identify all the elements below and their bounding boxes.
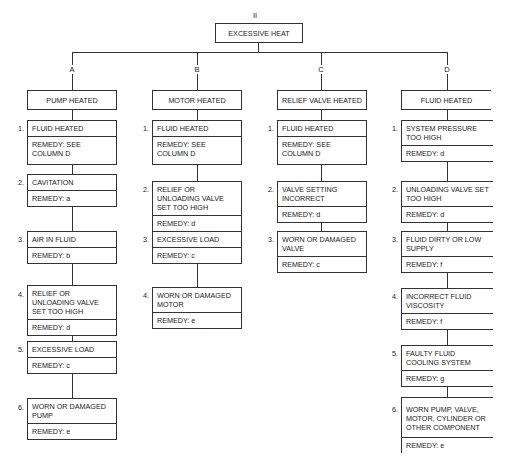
remedy-text: REMEDY: d <box>278 207 366 222</box>
item-number: 5. <box>384 349 398 358</box>
remedy-text: REMEDY: e <box>402 438 493 453</box>
cause-text: FLUID HEATED <box>153 121 241 137</box>
remedy-text: REMEDY: d <box>402 146 493 161</box>
item-number: 1. <box>260 124 274 133</box>
cause-text: FLUID HEATED <box>278 121 366 137</box>
cause-text: INCORRECT FLUID VISCOSITY <box>402 289 493 314</box>
remedy-text: REMEDY: SEE COLUMN D <box>28 137 116 164</box>
remedy-text: REMEDY: SEE COLUMN D <box>153 137 241 164</box>
column-c-title: RELIEF VALVE HEATED <box>277 90 367 110</box>
remedy-text: REMEDY: c <box>278 257 366 272</box>
item-number: 2. <box>260 185 274 194</box>
column-letter-b: B <box>192 65 202 74</box>
item-number: 3. <box>260 235 274 244</box>
cause-box: FLUID DIRTY OR LOW SUPPLY REMEDY: f <box>401 231 493 273</box>
remedy-text: REMEDY: d <box>402 207 493 222</box>
cause-text: RELIEF OR UNLOADING VALVE SET TOO HIGH <box>28 286 116 320</box>
remedy-text: REMEDY: b <box>28 248 116 263</box>
section-number: II <box>245 11 265 20</box>
cause-box: AIR IN FLUID REMEDY: b <box>27 231 117 264</box>
cause-text: EXCESSIVE LOAD <box>28 342 116 358</box>
cause-box: WORN OR DAMAGED PUMP REMEDY: e <box>27 398 117 440</box>
item-number: 2. <box>384 185 398 194</box>
remedy-text: REMEDY: f <box>402 314 493 329</box>
remedy-text: REMEDY: d <box>28 320 116 335</box>
item-number: 1. <box>384 124 398 133</box>
root-node-label: EXCESSIVE HEAT <box>228 29 289 38</box>
cause-text: SYSTEM PRESSURE TOO HIGH <box>402 121 493 146</box>
item-number: 1. <box>135 124 149 133</box>
cause-text: FLUID DIRTY OR LOW SUPPLY <box>402 232 493 257</box>
cause-box: FLUID HEATED REMEDY: SEE COLUMN D <box>277 120 367 165</box>
column-letter-c: C <box>316 65 326 74</box>
connector <box>258 43 259 52</box>
column-a-title: PUMP HEATED <box>27 90 117 110</box>
item-number: 6. <box>10 403 24 412</box>
cause-text: FLUID HEATED <box>28 121 116 137</box>
cause-text: RELIEF OR UNLOADING VALVE SET TOO HIGH <box>153 182 241 216</box>
cause-box: EXCESSIVE LOAD REMEDY: c <box>27 341 117 374</box>
cause-text: EXCESSIVE LOAD <box>153 232 241 248</box>
cause-box: VALVE SETTING INCORRECT REMEDY: d <box>277 181 367 223</box>
item-number: 5. <box>10 345 24 354</box>
cause-box: FAULTY FLUID COOLING SYSTEM REMEDY: g <box>401 345 493 387</box>
cause-box: WORN OR DAMAGED VALVE REMEDY: c <box>277 231 367 273</box>
cause-box: FLUID HEATED REMEDY: SEE COLUMN D <box>152 120 242 165</box>
item-number: 2. <box>10 178 24 187</box>
column-b-title-label: MOTOR HEATED <box>168 96 225 105</box>
remedy-text: REMEDY: e <box>28 424 116 439</box>
remedy-text: REMEDY: c <box>28 358 116 373</box>
remedy-text: REMEDY: a <box>28 191 116 206</box>
column-c-title-label: RELIEF VALVE HEATED <box>282 96 362 105</box>
cause-text: FAULTY FLUID COOLING SYSTEM <box>402 346 493 371</box>
cause-text: WORN OR DAMAGED VALVE <box>278 232 366 257</box>
remedy-text: REMEDY: d <box>153 216 241 231</box>
item-number: 2. <box>135 185 149 194</box>
cause-box: UNLOADING VALVE SET TOO HIGH REMEDY: d <box>401 181 493 223</box>
cause-box: RELIEF OR UNLOADING VALVE SET TOO HIGH R… <box>27 285 117 336</box>
cause-box: EXCESSIVE LOAD REMEDY: c <box>152 231 242 264</box>
cause-box: RELIEF OR UNLOADING VALVE SET TOO HIGH R… <box>152 181 242 232</box>
item-number: 4. <box>10 290 24 299</box>
cause-text: CAVITATION <box>28 175 116 191</box>
cause-box: INCORRECT FLUID VISCOSITY REMEDY: f <box>401 288 493 330</box>
column-b-title: MOTOR HEATED <box>152 90 242 110</box>
item-number: 3. <box>135 235 149 244</box>
column-d-title: FLUID HEATED <box>401 90 491 110</box>
connector <box>72 52 448 53</box>
cause-box: FLUID HEATED REMEDY: SEE COLUMN D <box>27 120 117 165</box>
column-d-title-label: FLUID HEATED <box>421 96 472 105</box>
cause-text: UNLOADING VALVE SET TOO HIGH <box>402 182 493 207</box>
remedy-text: REMEDY: f <box>402 257 493 272</box>
item-number: 3. <box>10 235 24 244</box>
remedy-text: REMEDY: e <box>153 313 241 328</box>
cause-text: AIR IN FLUID <box>28 232 116 248</box>
remedy-text: REMEDY: c <box>153 248 241 263</box>
column-a-title-label: PUMP HEATED <box>46 96 97 105</box>
column-letter-a: A <box>67 65 77 74</box>
item-number: 4. <box>135 291 149 300</box>
root-node: EXCESSIVE HEAT <box>215 23 303 43</box>
remedy-text: REMEDY: SEE COLUMN D <box>278 137 366 164</box>
item-number: 6. <box>384 405 398 414</box>
cause-text: VALVE SETTING INCORRECT <box>278 182 366 207</box>
item-number: 3. <box>384 235 398 244</box>
cause-box: CAVITATION REMEDY: a <box>27 174 117 207</box>
cause-text: WORN PUMP, VALVE, MOTOR, CYLINDER OR OTH… <box>402 398 493 438</box>
item-number: 4. <box>384 292 398 301</box>
cause-box: SYSTEM PRESSURE TOO HIGH REMEDY: d <box>401 120 493 162</box>
cause-text: WORN OR DAMAGED MOTOR <box>153 288 241 313</box>
cause-text: WORN OR DAMAGED PUMP <box>28 399 116 424</box>
cause-box: WORN OR DAMAGED MOTOR REMEDY: e <box>152 287 242 329</box>
remedy-text: REMEDY: g <box>402 371 493 386</box>
column-letter-d: D <box>442 65 452 74</box>
cause-box: WORN PUMP, VALVE, MOTOR, CYLINDER OR OTH… <box>401 397 493 453</box>
item-number: 1. <box>10 124 24 133</box>
